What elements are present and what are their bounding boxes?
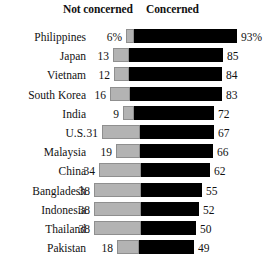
category-label: China (0, 164, 86, 178)
bar-segment-concerned (129, 48, 223, 62)
bar-segment-not-concerned (126, 29, 134, 43)
bar-segment-not-concerned (99, 163, 141, 177)
not-concerned-value-label: 31 (87, 126, 99, 140)
concerned-value-label: 85 (227, 49, 239, 63)
concerned-value-label: 67 (218, 126, 230, 140)
chart-row: South Korea1683 (0, 87, 273, 106)
chart-row: Bangladesh3855 (0, 183, 273, 202)
concerned-value-label: 72 (218, 107, 230, 121)
category-label: Pakistan (0, 241, 86, 255)
chart-row: U.S.3167 (0, 125, 273, 144)
bar-segment-not-concerned (117, 240, 139, 254)
chart-row: Malaysia1966 (0, 144, 273, 163)
bar-segment-concerned (139, 240, 194, 254)
category-label: India (0, 107, 86, 121)
bar-segment-not-concerned (94, 183, 141, 197)
chart-row: Vietnam1284 (0, 67, 273, 86)
bar-segment-not-concerned (123, 106, 134, 120)
bar-segment-concerned (141, 202, 199, 216)
category-label: Bangladesh (0, 184, 86, 198)
concerned-value-label: 52 (203, 203, 215, 217)
chart-row: China3462 (0, 163, 273, 182)
not-concerned-value-label: 9 (113, 107, 119, 121)
chart-row: Indonesia3852 (0, 202, 273, 221)
bar-segment-concerned (134, 29, 237, 43)
stacked-bar-chart: Not concerned Concerned Philippines6%93%… (0, 0, 273, 262)
chart-row: Pakistan1849 (0, 240, 273, 259)
chart-row: Thailand3850 (0, 221, 273, 240)
chart-row: Philippines6%93% (0, 29, 273, 48)
not-concerned-value-label: 38 (79, 222, 91, 236)
bar-segment-concerned (141, 183, 202, 197)
bar-segment-not-concerned (94, 221, 141, 235)
category-label: Vietnam (0, 68, 86, 82)
legend-label-concerned: Concerned (146, 3, 199, 15)
bar-segment-concerned (141, 163, 210, 177)
bar-segment-not-concerned (116, 144, 140, 158)
concerned-value-label: 93% (241, 30, 262, 44)
category-label: Indonesia (0, 203, 86, 217)
chart-row: Japan1385 (0, 48, 273, 67)
category-label: Thailand (0, 222, 86, 236)
bar-segment-concerned (130, 87, 222, 101)
bar-segment-not-concerned (94, 202, 141, 216)
not-concerned-value-label: 12 (99, 68, 111, 82)
bar-segment-not-concerned (102, 125, 140, 139)
concerned-value-label: 83 (226, 88, 238, 102)
bar-segment-not-concerned (114, 67, 129, 81)
category-label: Malaysia (0, 145, 86, 159)
bar-segment-concerned (140, 144, 213, 158)
bar-segment-concerned (141, 221, 196, 235)
not-concerned-value-label: 19 (101, 145, 113, 159)
bar-segment-concerned (129, 67, 222, 81)
not-concerned-value-label: 6% (107, 30, 122, 44)
concerned-value-label: 84 (226, 68, 238, 82)
category-label: Philippines (0, 30, 86, 44)
not-concerned-value-label: 13 (98, 49, 110, 63)
chart-row: India972 (0, 106, 273, 125)
bar-segment-concerned (134, 106, 214, 120)
concerned-value-label: 55 (206, 184, 218, 198)
not-concerned-value-label: 34 (84, 164, 96, 178)
legend-label-not-concerned: Not concerned (63, 3, 133, 15)
concerned-value-label: 50 (200, 222, 212, 236)
not-concerned-value-label: 16 (95, 88, 107, 102)
bar-segment-not-concerned (110, 87, 130, 101)
category-label: Japan (0, 49, 86, 63)
category-label: U.S. (0, 126, 86, 140)
bar-segment-not-concerned (113, 48, 129, 62)
concerned-value-label: 49 (198, 241, 210, 255)
not-concerned-value-label: 38 (79, 203, 91, 217)
concerned-value-label: 62 (214, 164, 226, 178)
concerned-value-label: 66 (217, 145, 229, 159)
not-concerned-value-label: 18 (102, 241, 114, 255)
bar-segment-concerned (140, 125, 214, 139)
not-concerned-value-label: 38 (79, 184, 91, 198)
category-label: South Korea (0, 88, 86, 102)
